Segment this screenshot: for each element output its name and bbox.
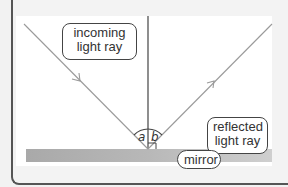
- reflection-diagram: [0, 0, 288, 187]
- mirror-label: mirror: [177, 150, 221, 169]
- incoming-label-line1: incoming: [68, 26, 131, 40]
- angle-b-label: b: [151, 130, 159, 144]
- reflected-label-line1: reflected: [213, 120, 262, 134]
- incoming-ray-label: incoming light ray: [62, 23, 137, 60]
- reflected-ray-label: reflected light ray: [207, 117, 268, 154]
- incoming-label-line2: light ray: [68, 40, 131, 54]
- angle-a-label: a: [138, 130, 145, 144]
- reflected-label-line2: light ray: [213, 134, 262, 148]
- reflected-arrow-icon: [207, 81, 214, 88]
